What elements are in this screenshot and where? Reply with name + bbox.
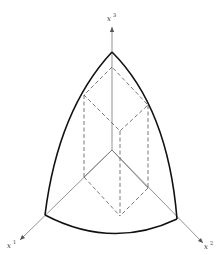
boundary-left-arc: [45, 52, 112, 215]
boundary-right-arc: [112, 52, 177, 219]
inner-edges: [84, 150, 148, 188]
svg-text:x: x: [204, 243, 208, 251]
diagram-canvas: x 3 x 1 x 2: [0, 0, 220, 255]
svg-text:x: x: [107, 15, 111, 23]
svg-text:x: x: [7, 242, 11, 250]
svg-text:2: 2: [210, 240, 213, 246]
axis-label-x2: x 2: [204, 240, 213, 251]
axis-label-x3: x 3: [107, 12, 116, 23]
boundary-bottom-arc: [45, 215, 177, 234]
axis-label-x1: x 1: [7, 239, 16, 250]
svg-text:3: 3: [113, 12, 116, 18]
svg-text:1: 1: [13, 239, 16, 245]
dashed-box: [84, 67, 148, 216]
